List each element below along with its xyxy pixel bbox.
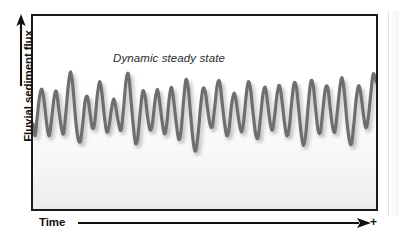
x-axis: Time + (31, 213, 381, 237)
x-axis-positive-marker: + (370, 215, 377, 229)
adjacent-panel-edge (388, 11, 399, 216)
right-arrow-icon (78, 214, 371, 232)
chart-svg (33, 16, 376, 209)
flux-waveform-line (33, 72, 376, 151)
y-axis: Fluvial sediment flux (0, 14, 31, 211)
figure-container: Dynamic steady state Fluvial sediment fl… (0, 0, 399, 249)
plot-area (31, 14, 378, 211)
y-axis-label: Fluvial sediment flux (22, 0, 34, 176)
dynamic-steady-state-annotation: Dynamic steady state (113, 52, 225, 64)
x-axis-label: Time (39, 216, 65, 228)
